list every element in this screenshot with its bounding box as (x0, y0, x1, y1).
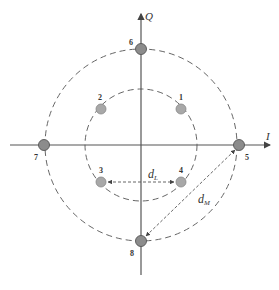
constellation-diagram: Q I dL dM 1 2 3 4 5 6 7 8 (0, 0, 279, 290)
i-axis-label: I (265, 130, 271, 142)
point-6 (136, 44, 147, 55)
dm-arrow (146, 150, 235, 236)
point-4 (176, 177, 186, 187)
point-7 (39, 140, 50, 151)
point-1-label: 1 (179, 93, 183, 102)
dl-label: dL (148, 167, 158, 182)
q-axis-label: Q (145, 10, 153, 22)
point-3 (96, 177, 106, 187)
point-2 (96, 104, 106, 114)
point-2-label: 2 (98, 93, 102, 102)
point-5-label: 5 (245, 153, 249, 162)
point-4-label: 4 (179, 166, 183, 175)
point-7-label: 7 (34, 153, 38, 162)
point-1 (176, 104, 186, 114)
point-5 (234, 140, 245, 151)
point-3-label: 3 (99, 166, 103, 175)
point-8 (136, 236, 147, 247)
dm-label: dM (198, 192, 211, 207)
point-8-label: 8 (130, 249, 134, 258)
point-6-label: 6 (129, 38, 133, 47)
